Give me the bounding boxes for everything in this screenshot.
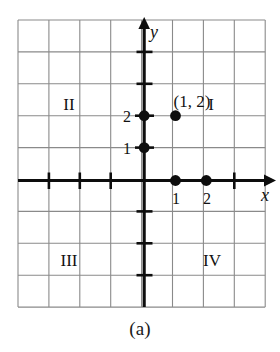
point-1-0	[170, 175, 181, 186]
x-tick-label-1: 1	[172, 190, 180, 207]
x-axis	[18, 175, 276, 187]
y-axis-label: y	[148, 22, 158, 42]
quadrant-label-4: IV	[203, 251, 222, 270]
y-axis-arrowhead	[138, 17, 150, 29]
x-axis-label: x	[260, 185, 269, 205]
quadrant-label-2: II	[63, 95, 75, 114]
coordinate-plane-svg: y x I II III IV (1, 2) 2 1 1 2	[0, 0, 280, 352]
point-0-1	[135, 142, 154, 153]
quadrant-label-3: III	[61, 251, 78, 270]
point-2-0	[201, 175, 212, 186]
y-tick-label-2: 2	[123, 108, 131, 125]
coordinate-plane-figure: y x I II III IV (1, 2) 2 1 1 2 (a)	[0, 0, 280, 352]
x-tick-label-2: 2	[203, 190, 211, 207]
figure-caption: (a)	[0, 318, 280, 340]
grid-lines	[18, 20, 265, 307]
y-tick-label-1: 1	[123, 140, 131, 157]
point-1-2	[170, 110, 181, 121]
point-coordinate-label: (1, 2)	[174, 92, 211, 111]
y-axis	[138, 17, 150, 307]
point-0-2	[135, 110, 154, 121]
